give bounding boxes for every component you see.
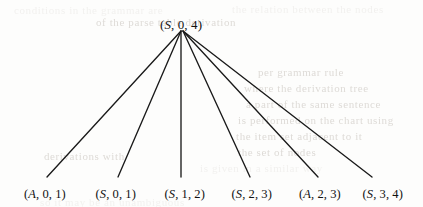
tree-edge [118, 31, 181, 177]
tree-leaf-label: (S, 3, 4) [363, 188, 404, 201]
tree-edges [0, 0, 423, 207]
tree-root-label: (S, 0, 4) [160, 18, 202, 31]
tree-edge [183, 31, 318, 177]
figure-canvas: conditions in the grammar arethe relatio… [0, 0, 423, 207]
tree-leaf-label: (S, 2, 3) [232, 188, 273, 201]
tree-leaf-label: (A, 0, 1) [24, 188, 66, 201]
tree-edge [183, 31, 372, 177]
node-symbol: A [28, 187, 36, 201]
tree-leaf-label: (S, 0, 1) [96, 188, 137, 201]
tree-edge [47, 31, 181, 177]
node-symbol: A [303, 187, 311, 201]
tree-edge [183, 31, 250, 177]
node-symbol: S [164, 17, 171, 32]
node-symbol: S [236, 187, 242, 201]
node-symbol: S [169, 187, 175, 201]
tree-leaf-label: (S, 1, 2) [165, 188, 206, 201]
tree-leaf-label: (A, 2, 3) [299, 188, 341, 201]
node-symbol: S [100, 187, 106, 201]
node-symbol: S [367, 187, 373, 201]
